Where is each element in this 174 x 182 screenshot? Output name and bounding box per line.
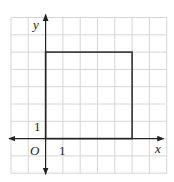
square-shape <box>46 52 133 139</box>
y-axis-label: y <box>31 17 39 32</box>
coordinate-plane: x y O 1 1 <box>0 0 174 182</box>
origin-label: O <box>30 143 40 158</box>
x-axis-label: x <box>154 141 161 156</box>
y-tick-label: 1 <box>34 119 41 134</box>
x-tick-label: 1 <box>59 143 66 158</box>
